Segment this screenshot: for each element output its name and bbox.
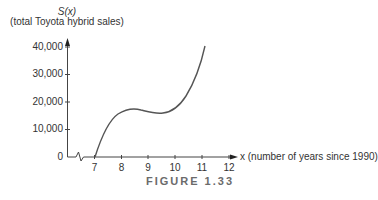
x-tick-label: 10 bbox=[165, 162, 185, 173]
data-curve bbox=[95, 46, 205, 157]
y-axis-arrow-icon bbox=[65, 38, 70, 46]
x-axis-label: x (number of years since 1990) bbox=[240, 151, 378, 162]
x-tick-label: 7 bbox=[85, 162, 105, 173]
x-tick-label: 11 bbox=[192, 162, 212, 173]
figure-caption: FIGURE 1.33 bbox=[146, 175, 234, 187]
x-axis bbox=[68, 152, 232, 161]
x-axis-arrow-icon bbox=[230, 155, 238, 160]
x-tick-label: 8 bbox=[112, 162, 132, 173]
x-tick-label: 9 bbox=[138, 162, 158, 173]
x-tick-label: 12 bbox=[219, 162, 239, 173]
